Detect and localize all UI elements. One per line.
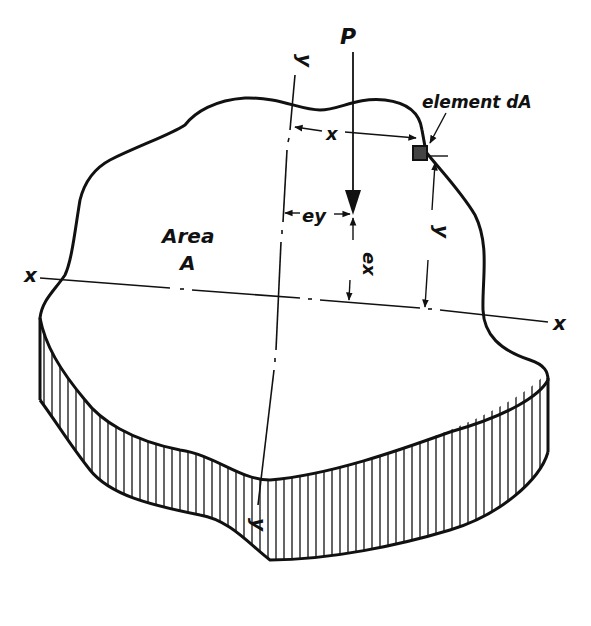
side-wall-hatching bbox=[44, 300, 540, 580]
ecc-y-label: ey bbox=[302, 205, 327, 226]
element-dA-square bbox=[413, 146, 427, 160]
element-label: element dA bbox=[422, 92, 532, 112]
load-label: P bbox=[340, 24, 356, 49]
area-symbol: A bbox=[178, 251, 195, 275]
y-axis-label-top: y bbox=[293, 54, 317, 68]
dimension-x-label: x bbox=[325, 123, 339, 144]
area-label: Area bbox=[160, 224, 214, 248]
diagram-canvas: x x y y P x element dA y ey bbox=[0, 0, 591, 626]
element-leader bbox=[430, 113, 446, 143]
x-axis bbox=[40, 278, 548, 322]
dimension-y-label: y bbox=[430, 225, 454, 239]
dimension-x bbox=[295, 127, 416, 138]
y-axis bbox=[258, 75, 295, 505]
top-surface-outline bbox=[40, 98, 548, 480]
x-axis-label-right: x bbox=[552, 311, 567, 335]
x-axis-label-left: x bbox=[23, 263, 38, 287]
y-axis-label-bottom: y bbox=[247, 518, 271, 532]
eccentricity-ex bbox=[349, 218, 353, 300]
ecc-x-label: ex bbox=[359, 252, 380, 277]
